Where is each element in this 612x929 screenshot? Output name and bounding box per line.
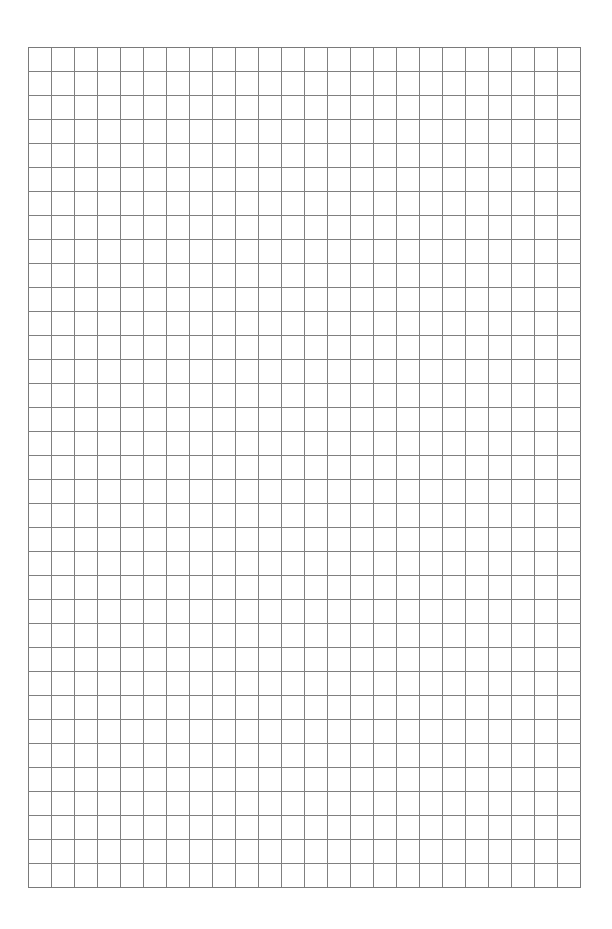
- grid-lines: [28, 47, 581, 888]
- graph-paper-grid: [28, 47, 581, 888]
